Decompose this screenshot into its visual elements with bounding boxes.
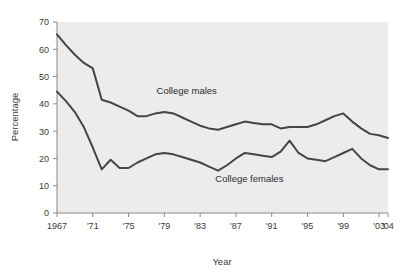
x-tick-label: 1967: [47, 221, 67, 231]
x-tick-label: '71: [87, 221, 99, 231]
line-chart: 010203040506070 1967'71'75'79'83'87'91'9…: [0, 0, 413, 273]
chart-figure: 010203040506070 1967'71'75'79'83'87'91'9…: [0, 0, 413, 273]
annotation-college-males: College males: [157, 85, 217, 96]
annotation-college-females: College females: [215, 173, 283, 184]
x-axis-label: Year: [212, 256, 231, 267]
x-tick-label: '79: [158, 221, 170, 231]
y-tick-label: 70: [39, 17, 49, 27]
x-tick-label: '04: [382, 221, 394, 231]
y-tick-label: 30: [39, 127, 49, 137]
y-tick-label: 0: [44, 208, 49, 218]
y-tick-label: 10: [39, 181, 49, 191]
y-tick-label: 60: [39, 45, 49, 55]
x-tick-label: '95: [302, 221, 314, 231]
plot-area-background: [57, 22, 388, 213]
y-tick-label: 20: [39, 154, 49, 164]
x-tick-label: '99: [337, 221, 349, 231]
y-tick-label: 50: [39, 72, 49, 82]
x-tick-label: '91: [266, 221, 278, 231]
y-tick-label: 40: [39, 99, 49, 109]
x-tick-label: '83: [194, 221, 206, 231]
x-tick-label: '87: [230, 221, 242, 231]
x-tick-label: '75: [123, 221, 135, 231]
y-axis-label: Percentage: [9, 93, 20, 142]
